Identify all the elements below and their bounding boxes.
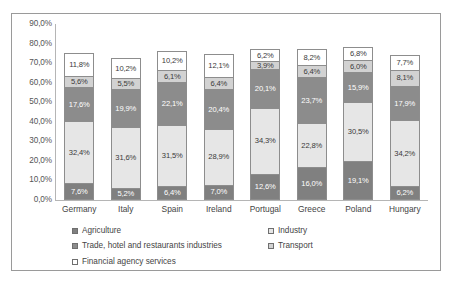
legend-item-agriculture[interactable]: Agriculture	[72, 227, 121, 235]
bar-segment[interactable]: 8,2%	[298, 50, 326, 66]
bar-segment[interactable]: 10,2%	[158, 52, 186, 72]
bar-segment[interactable]: 6,4%	[205, 78, 233, 90]
bar-value-label: 10,2%	[115, 65, 136, 73]
bar-value-label: 11,8%	[69, 61, 89, 69]
bar-segment[interactable]: 17,9%	[391, 87, 419, 122]
legend-swatch-icon	[268, 228, 274, 234]
bar-column[interactable]: 10,2%6,1%22,1%31,5%6,4%	[157, 51, 187, 200]
bar-segment[interactable]: 30,5%	[344, 103, 372, 162]
bar-value-label: 17,6%	[69, 101, 90, 109]
bar-segment[interactable]: 16,0%	[298, 168, 326, 199]
bar-value-label: 16,0%	[301, 180, 322, 188]
bar-segment[interactable]: 15,9%	[344, 73, 372, 104]
bar-segment[interactable]: 19,9%	[112, 90, 140, 128]
bar-segment[interactable]: 34,3%	[251, 109, 279, 175]
legend-swatch-icon	[72, 243, 78, 249]
bar-segment[interactable]: 6,4%	[158, 187, 186, 199]
bar-segment[interactable]: 17,6%	[65, 88, 93, 122]
y-axis-tick: 60,0%	[29, 79, 52, 87]
legend-swatch-icon	[72, 259, 78, 265]
bar-segment[interactable]: 3,9%	[251, 62, 279, 70]
bar-segment[interactable]: 31,6%	[112, 128, 140, 189]
bar-column[interactable]: 6,2%3,9%20,1%34,3%12,6%	[250, 49, 280, 200]
bar-segment[interactable]: 5,5%	[112, 79, 140, 90]
bar-value-label: 20,1%	[255, 85, 276, 93]
x-axis: GermanyItalySpainIrelandPortugalGreecePo…	[56, 204, 428, 220]
bar-column[interactable]: 10,2%5,5%19,9%31,6%5,2%	[111, 58, 141, 200]
bar-column[interactable]: 11,8%5,6%17,6%32,4%7,6%	[64, 53, 94, 200]
bar-segment[interactable]: 20,4%	[205, 90, 233, 129]
bar-value-label: 30,5%	[348, 128, 369, 136]
bar-segment[interactable]: 20,1%	[251, 70, 279, 109]
bar-value-label: 19,9%	[115, 105, 136, 113]
bar-segment[interactable]: 6,1%	[158, 71, 186, 83]
bar-segment[interactable]: 11,8%	[65, 54, 93, 77]
legend-label: Agriculture	[82, 227, 121, 235]
legend-swatch-icon	[72, 228, 78, 234]
bar-segment[interactable]: 5,2%	[112, 189, 140, 199]
bar-value-label: 34,2%	[394, 150, 415, 158]
bar-segment[interactable]: 12,1%	[205, 55, 233, 78]
legend-item-trade[interactable]: Trade, hotel and restaurants industries	[72, 242, 222, 250]
bar-column[interactable]: 8,2%6,4%23,7%22,8%16,0%	[297, 49, 327, 200]
x-axis-tick: Hungary	[389, 204, 421, 214]
bar-segment[interactable]: 7,0%	[205, 186, 233, 200]
bar-segment[interactable]: 10,2%	[112, 59, 140, 79]
bar-segment[interactable]: 31,5%	[158, 126, 186, 187]
bar-column[interactable]: 6,8%6,0%15,9%30,5%19,1%	[343, 47, 373, 200]
bar-value-label: 12,6%	[255, 183, 276, 191]
y-axis-tick: 80,0%	[29, 39, 52, 47]
bar-value-label: 5,5%	[117, 80, 134, 88]
bar-column[interactable]: 7,7%8,1%17,9%34,2%6,2%	[390, 55, 420, 200]
plot-area: 11,8%5,6%17,6%32,4%7,6%10,2%5,5%19,9%31,…	[56, 24, 428, 200]
bar-value-label: 31,6%	[115, 154, 136, 162]
bar-segment[interactable]: 32,4%	[65, 122, 93, 185]
x-axis-tick: Poland	[345, 204, 371, 214]
bar-value-label: 7,0%	[210, 188, 227, 196]
bar-segment[interactable]: 12,6%	[251, 175, 279, 199]
bar-value-label: 8,1%	[396, 74, 413, 82]
bar-segment[interactable]: 22,8%	[298, 124, 326, 168]
y-axis-tick: 0,0%	[34, 196, 52, 204]
bar-segment[interactable]: 34,2%	[391, 121, 419, 187]
bar-segment[interactable]: 6,8%	[344, 48, 372, 61]
bar-value-label: 28,9%	[208, 153, 229, 161]
bar-segment[interactable]: 19,1%	[344, 162, 372, 199]
bar-value-label: 19,1%	[348, 177, 369, 185]
bar-value-label: 6,4%	[303, 68, 320, 76]
legend-swatch-icon	[268, 243, 274, 249]
bar-value-label: 6,0%	[350, 63, 367, 71]
x-axis-tick: Italy	[118, 204, 133, 214]
legend-item-transport[interactable]: Transport	[268, 242, 313, 250]
bar-segment[interactable]: 22,1%	[158, 83, 186, 126]
x-axis-tick: Greece	[298, 204, 325, 214]
bar-segment[interactable]: 28,9%	[205, 130, 233, 186]
bar-value-label: 31,5%	[162, 152, 183, 160]
bar-value-label: 3,9%	[257, 62, 274, 70]
legend-item-industry[interactable]: Industry	[268, 227, 307, 235]
chart-container: 0,0%10,0%20,0%30,0%40,0%50,0%60,0%70,0%8…	[11, 13, 441, 271]
y-axis-tick: 20,0%	[29, 157, 52, 165]
y-axis-tick: 50,0%	[29, 98, 52, 106]
bar-segment[interactable]: 7,6%	[65, 184, 93, 199]
bar-column[interactable]: 12,1%6,4%20,4%28,9%7,0%	[204, 54, 234, 200]
bar-value-label: 23,7%	[301, 97, 322, 105]
bar-segment[interactable]: 7,7%	[391, 56, 419, 71]
bar-segment[interactable]: 23,7%	[298, 78, 326, 124]
legend-item-financial[interactable]: Financial agency services	[72, 258, 176, 266]
bar-segment[interactable]: 5,6%	[65, 77, 93, 88]
x-axis-tick: Germany	[62, 204, 96, 214]
bar-segment[interactable]: 6,4%	[298, 66, 326, 78]
bar-value-label: 6,1%	[164, 73, 181, 81]
bar-value-label: 8,2%	[303, 54, 320, 62]
bar-value-label: 6,2%	[396, 189, 413, 197]
chart-legend: AgricultureIndustryTrade, hotel and rest…	[72, 227, 412, 271]
legend-label: Financial agency services	[82, 258, 176, 266]
bar-segment[interactable]: 6,0%	[344, 61, 372, 73]
bar-segment[interactable]: 8,1%	[391, 71, 419, 87]
bar-value-label: 7,6%	[71, 188, 88, 196]
bar-segment[interactable]: 6,2%	[391, 187, 419, 199]
bar-value-label: 6,8%	[350, 50, 367, 58]
y-axis-tick: 10,0%	[29, 176, 52, 184]
bar-value-label: 7,7%	[396, 59, 413, 67]
